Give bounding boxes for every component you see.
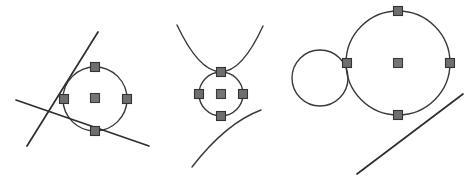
large-circle-with-tangent-circle-and-line (292, 7, 463, 175)
large-circle-with-tangent-circle-and-line-marker-center[interactable] (394, 59, 403, 68)
circle-with-two-tangent-lines-marker-center[interactable] (91, 94, 100, 103)
large-circle-with-tangent-circle-and-line-marker-top[interactable] (394, 7, 403, 16)
circle-between-two-tangent-arcs-marker-right[interactable] (239, 90, 248, 99)
circle-between-two-tangent-arcs-marker-bottom[interactable] (217, 112, 226, 121)
circle-between-two-tangent-arcs-lower-arc (192, 110, 261, 167)
circle-between-two-tangent-arcs-marker-left[interactable] (195, 90, 204, 99)
circle-with-two-tangent-lines-marker-right[interactable] (123, 95, 132, 104)
figure-canvas (0, 0, 469, 184)
circle-with-two-tangent-lines-marker-bottom[interactable] (91, 127, 100, 136)
circle-between-two-tangent-arcs (177, 25, 263, 167)
circle-with-two-tangent-lines (16, 32, 149, 146)
circle-with-two-tangent-lines-marker-top[interactable] (91, 63, 100, 72)
large-circle-with-tangent-circle-and-line-tangent-line (357, 94, 463, 174)
circle-with-two-tangent-lines-marker-left[interactable] (60, 95, 69, 104)
circle-between-two-tangent-arcs-marker-center[interactable] (217, 90, 226, 99)
circle-between-two-tangent-arcs-upper-arc (177, 25, 263, 72)
circle-between-two-tangent-arcs-marker-top[interactable] (217, 68, 226, 77)
circle-with-two-tangent-lines-shallow-tangent-line (16, 100, 149, 146)
large-circle-with-tangent-circle-and-line-marker-right[interactable] (446, 59, 455, 68)
geometry-diagram (0, 0, 469, 184)
large-circle-with-tangent-circle-and-line-marker-bottom[interactable] (394, 111, 403, 120)
large-circle-with-tangent-circle-and-line-marker-left[interactable] (343, 59, 352, 68)
circle-with-two-tangent-lines-steep-tangent-line (27, 32, 98, 146)
large-circle-with-tangent-circle-and-line-small-tangent-circle (292, 50, 348, 106)
